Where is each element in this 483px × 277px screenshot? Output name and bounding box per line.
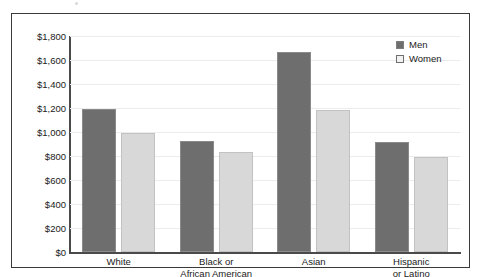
bar-women[interactable] [316, 110, 350, 252]
plot-area [70, 36, 460, 252]
legend-item-women[interactable]: Women [396, 52, 442, 66]
y-axis-tick-label: $400 [14, 200, 66, 210]
y-axis-tick-label: $1,800 [14, 32, 66, 42]
y-axis-tick-label: $600 [14, 176, 66, 186]
page-artifact-speck [75, 2, 78, 5]
bar-men[interactable] [375, 142, 409, 252]
gridline [70, 84, 460, 85]
x-axis-category-label: Hispanicor Latino [341, 256, 481, 277]
legend-swatch-women-icon [396, 55, 404, 63]
chart-page: $1,800$1,600$1,400$1,200$1,000$800$600$4… [0, 0, 483, 277]
y-axis-tick-label: $200 [14, 224, 66, 234]
category-label-line: African American [146, 268, 286, 277]
legend-label-women: Women [409, 54, 442, 64]
y-axis-tick-label: $1,200 [14, 104, 66, 114]
bar-men[interactable] [180, 141, 214, 252]
y-axis-tick-labels: $1,800$1,600$1,400$1,200$1,000$800$600$4… [12, 36, 66, 252]
y-axis-tick-label: $1,600 [14, 56, 66, 66]
category-label-line: or Latino [341, 268, 481, 277]
y-axis-tick-label: $800 [14, 152, 66, 162]
legend-label-men: Men [409, 40, 427, 50]
x-axis-line [69, 252, 461, 254]
bar-women[interactable] [219, 152, 253, 252]
chart-legend: Men Women [396, 38, 442, 66]
gridline [70, 36, 460, 37]
chart-frame: $1,800$1,600$1,400$1,200$1,000$800$600$4… [11, 13, 470, 268]
bar-women[interactable] [414, 157, 448, 252]
y-axis-tick-label: $1,400 [14, 80, 66, 90]
legend-item-men[interactable]: Men [396, 38, 442, 52]
category-label-line: Hispanic [341, 256, 481, 268]
bar-women[interactable] [121, 133, 155, 252]
bar-men[interactable] [277, 52, 311, 252]
y-axis-tick-label: $1,000 [14, 128, 66, 138]
bar-men[interactable] [82, 109, 116, 252]
gridline [70, 108, 460, 109]
legend-swatch-men-icon [396, 41, 404, 49]
